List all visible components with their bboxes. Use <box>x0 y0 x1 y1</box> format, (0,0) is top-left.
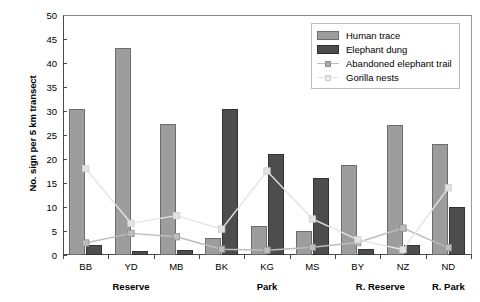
legend-item-gorilla-nests: Gorilla nests <box>317 70 452 84</box>
x-axis-tick-mark <box>380 254 381 259</box>
x-axis-tick-mark <box>290 254 291 259</box>
x-axis-label-by: BY <box>351 261 364 272</box>
chart-container: No. sign per 5 km transect 0510152025303… <box>0 0 480 302</box>
bar-nz-human-trace <box>387 125 403 255</box>
y-axis-tick-label: 5 <box>0 226 63 237</box>
legend-label-human-trace: Human trace <box>346 30 400 41</box>
y-axis-tick-label: 25 <box>0 130 63 141</box>
bar-bb-human-trace <box>69 109 85 255</box>
legend-label-elephant-dung: Elephant dung <box>346 44 407 55</box>
legend-item-abandoned-elephant-trail: Abandoned elephant trail <box>317 56 452 70</box>
bar-nd-elephant-dung <box>449 207 465 255</box>
bar-kg-human-trace <box>251 226 267 255</box>
x-axis-label-mb: MB <box>169 261 183 272</box>
group-label-reserve: Reserve <box>113 281 150 292</box>
x-axis-label-kg: KG <box>260 261 274 272</box>
legend-swatch-human-trace <box>317 31 339 40</box>
chart-legend: Human trace Elephant dung Abandoned elep… <box>311 23 460 89</box>
legend-marker-gorilla-nests <box>317 73 339 82</box>
group-label-r-reserve: R. Reserve <box>356 281 405 292</box>
bar-by-human-trace <box>341 165 357 255</box>
bar-bk-human-trace <box>205 238 221 255</box>
y-axis-tick-label: 15 <box>0 178 63 189</box>
x-axis-tick-mark <box>335 254 336 259</box>
group-label-r-park: R. Park <box>432 281 465 292</box>
legend-label-abandoned-elephant-trail: Abandoned elephant trail <box>346 58 452 69</box>
bar-nd-human-trace <box>432 144 448 255</box>
legend-item-elephant-dung: Elephant dung <box>317 42 452 56</box>
x-axis-label-yd: YD <box>124 261 137 272</box>
bar-by-elephant-dung <box>358 249 374 255</box>
y-axis-tick-label: 50 <box>0 10 63 21</box>
x-axis-tick-mark <box>108 254 109 259</box>
y-axis-tick-label: 30 <box>0 106 63 117</box>
y-axis-tick-label: 0 <box>0 250 63 261</box>
bar-mb-elephant-dung <box>177 250 193 255</box>
right-axis-line <box>471 15 472 255</box>
x-axis-tick-mark <box>471 254 472 259</box>
bar-nz-elephant-dung <box>404 245 420 255</box>
legend-swatch-elephant-dung <box>317 45 339 54</box>
x-axis-label-bk: BK <box>215 261 228 272</box>
x-axis-tick-mark <box>199 254 200 259</box>
bar-ms-human-trace <box>296 231 312 255</box>
bar-ms-elephant-dung <box>313 178 329 255</box>
x-axis-tick-mark <box>154 254 155 259</box>
x-axis-label-nd: ND <box>441 261 455 272</box>
y-axis-tick-label: 45 <box>0 34 63 45</box>
x-axis-label-ms: MS <box>305 261 319 272</box>
y-axis-tick-label: 20 <box>0 154 63 165</box>
bar-mb-human-trace <box>160 124 176 255</box>
x-axis-label-bb: BB <box>79 261 92 272</box>
y-axis-tick-label: 10 <box>0 202 63 213</box>
x-axis-tick-mark <box>63 254 64 259</box>
y-axis-tick-label: 35 <box>0 82 63 93</box>
group-label-park: Park <box>257 281 278 292</box>
bar-bk-elephant-dung <box>222 109 238 255</box>
bar-kg-elephant-dung <box>268 154 284 255</box>
bar-yd-human-trace <box>115 48 131 255</box>
legend-label-gorilla-nests: Gorilla nests <box>346 72 399 83</box>
bar-yd-elephant-dung <box>132 251 148 255</box>
y-axis-tick-label: 40 <box>0 58 63 69</box>
bar-bb-elephant-dung <box>86 245 102 255</box>
legend-marker-abandoned-elephant-trail <box>317 59 339 68</box>
x-axis-tick-mark <box>426 254 427 259</box>
x-axis-label-nz: NZ <box>397 261 410 272</box>
x-axis-tick-mark <box>244 254 245 259</box>
legend-item-human-trace: Human trace <box>317 28 452 42</box>
